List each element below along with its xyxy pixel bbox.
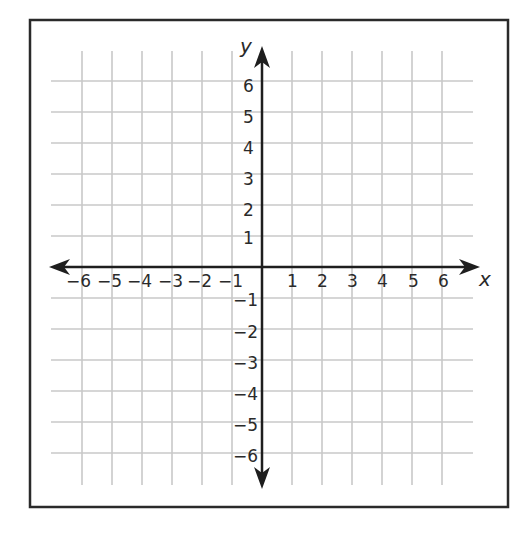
y-tick-label: −5 [233, 415, 258, 435]
y-tick-label: −3 [233, 353, 258, 373]
x-tick-label: 3 [347, 271, 358, 291]
x-tick-label: −6 [66, 271, 91, 291]
y-tick-label: 6 [243, 76, 254, 96]
x-tick-label: −4 [127, 271, 152, 291]
y-tick-label: −2 [233, 322, 258, 342]
y-tick-label: 4 [243, 138, 254, 158]
x-tick-label: −5 [97, 271, 122, 291]
x-tick-label: 1 [287, 271, 298, 291]
y-tick-label: 2 [243, 200, 254, 220]
x-tick-label: 6 [438, 271, 449, 291]
y-tick-label: 3 [243, 169, 254, 189]
y-tick-label: 5 [243, 107, 254, 127]
x-tick-label: −2 [187, 271, 212, 291]
frame-border [30, 20, 508, 507]
coordinate-plane: x y −6 −5 −4 −3 −2 −1 1 2 3 4 5 6 6 5 4 … [0, 0, 528, 539]
x-tick-label: −3 [158, 271, 183, 291]
y-tick-label: −6 [233, 446, 258, 466]
y-tick-label: −4 [233, 384, 258, 404]
x-tick-label: 2 [317, 271, 328, 291]
y-tick-label: 1 [243, 228, 254, 248]
x-tick-label: −1 [218, 271, 243, 291]
y-tick-label: −1 [233, 290, 258, 310]
x-axis-label: x [478, 267, 491, 291]
y-axis-label: y [239, 34, 253, 58]
x-tick-label: 4 [377, 271, 388, 291]
x-tick-label: 5 [408, 271, 419, 291]
